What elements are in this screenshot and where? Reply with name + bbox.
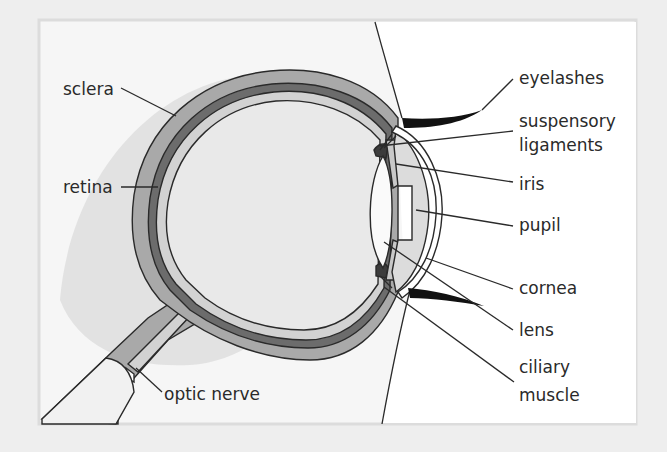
label-suspensory: suspensory (519, 111, 616, 131)
label-ligaments: ligaments (519, 135, 603, 155)
label-retina: retina (63, 177, 113, 197)
label-sclera: sclera (63, 79, 114, 99)
label-ciliary: ciliary (519, 357, 570, 377)
label-iris: iris (519, 174, 544, 194)
label-optic-nerve: optic nerve (164, 384, 260, 404)
label-eyelashes: eyelashes (519, 68, 604, 88)
label-cornea: cornea (519, 278, 577, 298)
label-lens: lens (519, 320, 554, 340)
label-pupil: pupil (519, 215, 561, 235)
eye-diagram: sclera retina optic nerve eyelashes susp… (0, 0, 667, 452)
label-muscle: muscle (519, 385, 580, 405)
